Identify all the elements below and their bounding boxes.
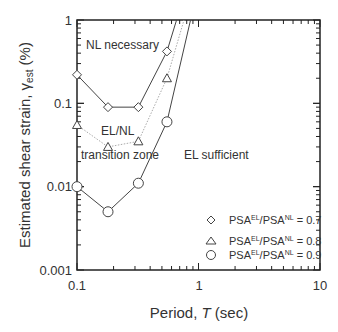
y-tick-0.01: 0.01	[47, 179, 72, 194]
legend-label-0.9: PSAEL/PSANL = 0.9	[229, 249, 321, 261]
axis-ticks	[77, 20, 320, 270]
y-tick-1: 1	[65, 13, 72, 28]
x-tick-10: 10	[313, 278, 327, 293]
annotation-nl-necessary: NL necessary	[86, 38, 159, 52]
x-tick-0.1: 0.1	[68, 278, 86, 293]
data-point-triangle	[134, 137, 143, 145]
legend-triangle-icon	[206, 237, 216, 244]
y-tick-0.1: 0.1	[54, 96, 72, 111]
data-point-triangle	[162, 74, 171, 82]
legend: PSAEL/PSANL = 0.7 PSAEL/PSANL = 0.8 PSAE…	[206, 214, 321, 261]
y-axis-title: Estimated shear strain, γest (%)	[16, 42, 35, 248]
data-point-circle	[162, 117, 172, 127]
legend-circle-icon	[207, 251, 216, 260]
data-point-diamond	[162, 47, 171, 56]
x-axis-title: Period, T (sec)	[150, 304, 248, 321]
strain-period-chart: 0.1 1 10 1 0.1 0.01 0.001 Period, T (sec…	[0, 0, 338, 332]
plot-frame	[77, 20, 320, 270]
data-point-circle	[72, 182, 82, 192]
annotation-el-sufficient: EL sufficient	[184, 148, 249, 162]
x-tick-1: 1	[195, 278, 202, 293]
y-tick-0.001: 0.001	[39, 263, 72, 278]
annotation-el-nl: EL/NL	[101, 124, 135, 138]
legend-diamond-icon	[207, 216, 215, 224]
data-point-circle	[133, 178, 143, 188]
data-point-diamond	[134, 103, 143, 112]
data-point-circle	[103, 207, 113, 217]
legend-label-0.8: PSAEL/PSANL = 0.8	[229, 235, 321, 247]
series-line-diamond	[77, 20, 177, 107]
annotation-transition-zone: transition zone	[81, 148, 159, 162]
legend-label-0.7: PSAEL/PSANL = 0.7	[229, 214, 321, 226]
